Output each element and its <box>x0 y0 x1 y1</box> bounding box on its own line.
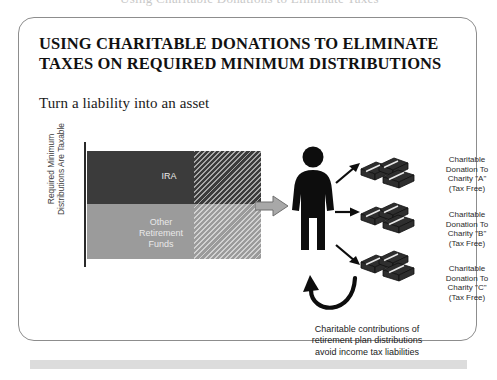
retirement-funds-chart: Required Minimum Distributions Are Taxab… <box>31 123 271 283</box>
chart-y-axis-label: Required Minimum Distributions Are Taxab… <box>46 104 66 234</box>
cut-off-header-text: Using Charitable Donations to Eliminate … <box>0 0 497 7</box>
bar-label-ira: IRA <box>129 171 209 182</box>
chart-y-axis-line <box>84 142 86 267</box>
curved-arrow-icon <box>301 274 361 324</box>
bottom-caption: Charitable contributions of retirement p… <box>277 324 457 358</box>
donation-label-b: Charitable Donation To Charity "B" (Tax … <box>428 210 497 248</box>
donation-label-a: Charitable Donation To Charity "A" (Tax … <box>428 155 497 193</box>
page-title: USING CHARITABLE DONATIONS TO ELIMINATE … <box>39 34 459 73</box>
money-stack-icon-a <box>359 156 417 194</box>
person-icon <box>291 146 335 258</box>
money-stack-icon-b <box>359 201 417 239</box>
infographic-card: USING CHARITABLE DONATIONS TO ELIMINATE … <box>18 17 477 341</box>
chart-bands: IRA Other Retirement Funds <box>87 151 261 259</box>
infographic-page: Using Charitable Donations to Eliminate … <box>0 0 497 380</box>
arrow-right-icon-a <box>335 163 361 189</box>
footer-bar <box>30 360 467 369</box>
bar-label-other-retirement-funds: Other Retirement Funds <box>121 217 201 250</box>
donation-label-c: Charitable Donation To Charity "C" (Tax … <box>428 264 497 302</box>
arrow-right-icon-b <box>335 204 361 222</box>
grey-arrow-right-icon <box>255 195 289 221</box>
money-stack-icon-c <box>359 249 417 287</box>
arrow-right-icon-c <box>335 243 361 269</box>
